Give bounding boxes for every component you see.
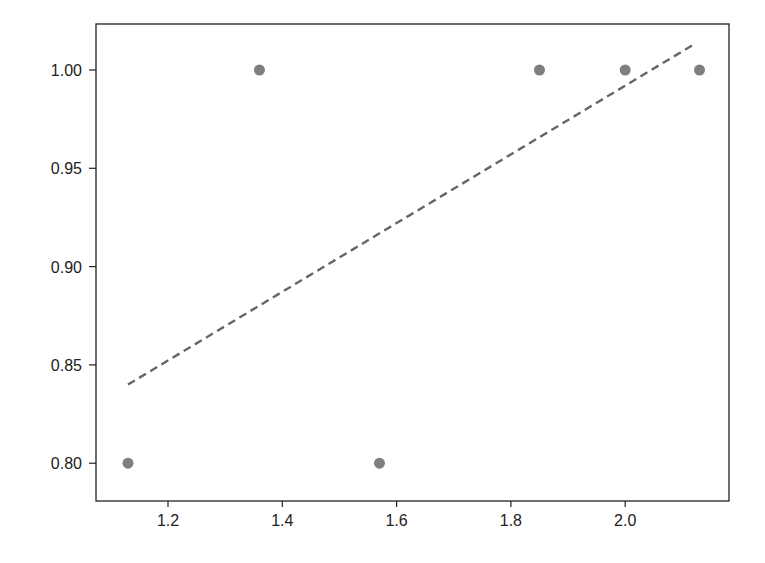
data-point — [122, 458, 133, 469]
x-tick-label: 1.6 — [385, 512, 407, 529]
x-tick-label: 2.0 — [614, 512, 636, 529]
scatter-chart: 1.21.41.61.82.0 0.800.850.900.951.00 — [0, 0, 765, 563]
x-tick-label: 1.8 — [500, 512, 522, 529]
x-axis: 1.21.41.61.82.0 — [157, 501, 637, 529]
y-tick-label: 0.85 — [51, 357, 82, 374]
y-tick-label: 0.95 — [51, 160, 82, 177]
data-point — [534, 65, 545, 76]
data-point — [254, 65, 265, 76]
y-axis: 0.800.850.900.951.00 — [51, 62, 96, 472]
y-tick-label: 0.80 — [51, 455, 82, 472]
x-tick-label: 1.2 — [157, 512, 179, 529]
y-tick-label: 0.90 — [51, 259, 82, 276]
data-point — [374, 458, 385, 469]
x-tick-label: 1.4 — [271, 512, 293, 529]
data-point — [694, 65, 705, 76]
plot-area-frame — [96, 24, 729, 501]
y-tick-label: 1.00 — [51, 62, 82, 79]
data-point — [620, 65, 631, 76]
